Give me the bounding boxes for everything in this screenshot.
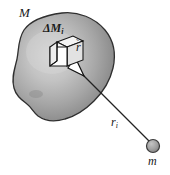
label-mass-element: ΔMi [43, 22, 63, 36]
label-mass-element-subscript: i [61, 27, 63, 36]
blob-shading-spot [29, 90, 43, 98]
label-mass-element-text: ΔM [43, 21, 61, 35]
label-point-mass: m [148, 155, 157, 167]
label-distance-subscript: i [116, 121, 118, 130]
figure-gravitational-attraction: M ΔMi ˜r ri m [0, 0, 170, 175]
figure-caption [4, 168, 166, 175]
label-distance: ri [111, 116, 118, 130]
distance-line [81, 73, 150, 142]
point-mass-circle [147, 140, 160, 153]
label-position-vector: ˜r [76, 41, 81, 53]
vector-accent-icon: ˜ [76, 38, 79, 47]
diagram-canvas [0, 0, 170, 175]
label-body-mass: M [19, 6, 30, 19]
